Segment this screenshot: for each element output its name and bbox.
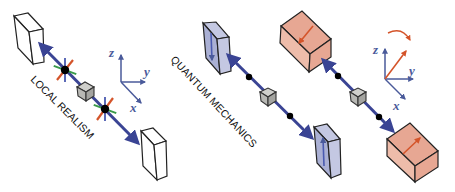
axis-label-x-2: x [392, 98, 400, 113]
detector-box-top-left [14, 13, 44, 64]
particle-top [246, 74, 252, 80]
polarizer-top-red [280, 11, 331, 72]
source-cube-2 [260, 88, 276, 106]
polarizer-bottom-red [387, 123, 438, 182]
axis-label-z: z [108, 45, 115, 60]
rotated-axis-arrow [385, 51, 406, 79]
panel-local-realism: z y x LOCAL REALISM [14, 13, 167, 180]
rotation-arrow-icon [388, 31, 410, 40]
polarizer-top-blue [203, 22, 231, 74]
particle-top-3 [335, 73, 341, 79]
source-cube-1 [77, 82, 94, 101]
axis-label-y: y [142, 64, 150, 79]
axis-label-x: x [129, 100, 137, 115]
particle-bottom [287, 113, 293, 119]
polarizer-bottom-blue [314, 124, 341, 178]
panel-rotated-measurement: z y x [280, 11, 438, 182]
axis-label-z-2: z [372, 42, 379, 57]
particle-bottom-3 [376, 114, 382, 120]
axis-label-y-2: y [407, 63, 415, 78]
axes-icon-1 [121, 55, 145, 103]
detector-box-bottom-right [141, 128, 167, 180]
bell-test-diagram: z y x LOCAL REALISM [0, 0, 455, 192]
